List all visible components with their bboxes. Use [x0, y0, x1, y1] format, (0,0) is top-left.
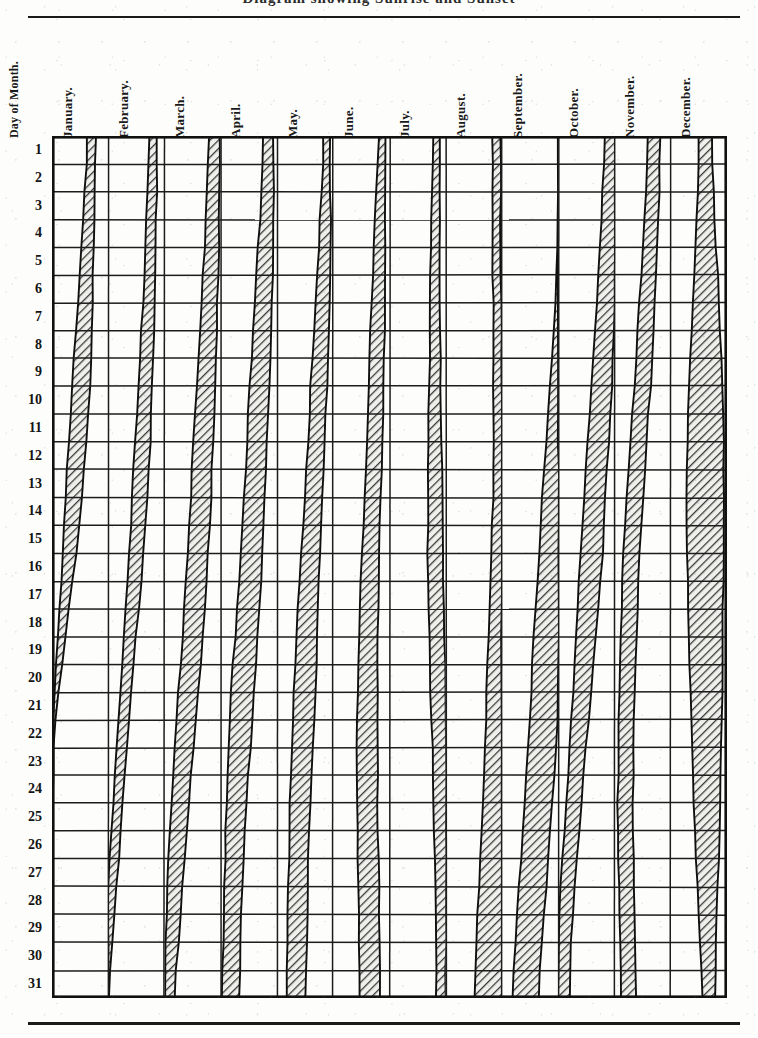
header-month-april: April.: [228, 103, 244, 138]
header-month-july: July.: [397, 110, 413, 138]
row-number: 18: [0, 616, 42, 630]
row-number: 23: [0, 755, 42, 769]
row-number: 21: [0, 699, 42, 713]
row-number: 12: [0, 449, 42, 463]
plate-title-clip: Diagram showing Sunrise and Sunset: [0, 0, 758, 12]
row-number: 7: [0, 310, 42, 324]
band-january: [52, 136, 96, 998]
chart-plot-area: [52, 136, 727, 998]
row-number-gutter: 1234567891011121314151617181920212223242…: [0, 136, 48, 998]
band-may: [287, 136, 331, 998]
row-number: 30: [0, 949, 42, 963]
band-july: [427, 136, 446, 998]
row-number: 17: [0, 588, 42, 602]
header-month-november: November.: [622, 75, 638, 138]
header-month-august: August.: [453, 93, 469, 138]
row-number: 10: [0, 393, 42, 407]
header-month-march: March.: [172, 96, 188, 138]
row-number: 4: [0, 226, 42, 240]
row-number: 25: [0, 810, 42, 824]
band-november: [617, 136, 660, 998]
row-number: 24: [0, 782, 42, 796]
header-day-of-month: Day of Month.: [7, 61, 22, 138]
band-june: [357, 136, 386, 998]
row-number: 31: [0, 977, 42, 991]
header-month-september: September.: [510, 73, 526, 138]
header-month-october: October.: [566, 88, 582, 138]
row-number: 6: [0, 282, 42, 296]
row-number: 26: [0, 838, 42, 852]
header-month-february: February.: [116, 80, 132, 138]
band-april: [222, 136, 274, 998]
row-number: 11: [0, 421, 42, 435]
header-month-january: January.: [60, 87, 76, 138]
row-number: 1: [0, 143, 42, 157]
header-month-december: December.: [678, 77, 694, 138]
sunrise-sunset-diagram: [52, 136, 727, 998]
header-month-june: June.: [341, 107, 357, 138]
row-number: 13: [0, 477, 42, 491]
band-december: [686, 136, 724, 998]
plate-title: Diagram showing Sunrise and Sunset: [0, 0, 758, 7]
plate-page: Diagram showing Sunrise and Sunset Day o…: [0, 0, 758, 1038]
row-number: 14: [0, 504, 42, 518]
row-number: 9: [0, 365, 42, 379]
band-august: [475, 136, 503, 998]
month-bands: [52, 136, 724, 998]
row-number: 29: [0, 921, 42, 935]
row-number: 16: [0, 560, 42, 574]
row-number: 28: [0, 894, 42, 908]
header-month-may: May.: [285, 109, 301, 138]
row-number: 20: [0, 671, 42, 685]
row-number: 22: [0, 727, 42, 741]
band-february: [108, 136, 158, 998]
row-number: 5: [0, 254, 42, 268]
band-september: [513, 136, 560, 998]
row-number: 27: [0, 866, 42, 880]
row-number: 19: [0, 643, 42, 657]
row-number: 3: [0, 199, 42, 213]
row-number: 2: [0, 171, 42, 185]
band-october: [558, 136, 616, 998]
rule-top: [28, 16, 740, 18]
row-number: 8: [0, 338, 42, 352]
rule-bottom: [28, 1022, 740, 1025]
row-number: 15: [0, 532, 42, 546]
column-headers: Day of Month.January.February.March.Apri…: [0, 34, 758, 138]
band-march: [165, 136, 220, 998]
